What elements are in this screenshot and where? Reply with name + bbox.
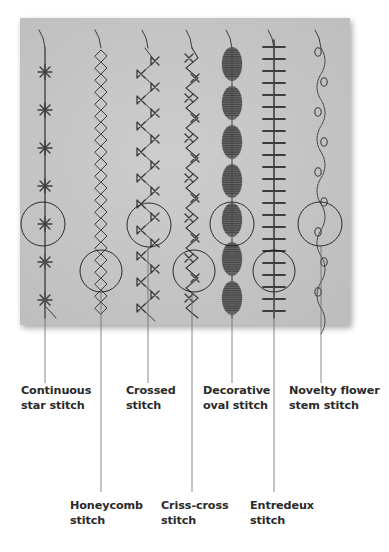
label-line-1: Honeycomb xyxy=(70,499,143,514)
label-line-2: star stitch xyxy=(21,399,91,414)
decorative-oval-label: Decorativeoval stitch xyxy=(203,384,270,413)
label-line-2: stitch xyxy=(250,514,314,529)
continuous-star-label: Continuousstar stitch xyxy=(21,384,91,413)
label-line-1: Criss-cross xyxy=(161,499,229,514)
label-line-2: stem stitch xyxy=(289,399,380,414)
label-line-1: Novelty flower xyxy=(289,384,380,399)
label-line-2: stitch xyxy=(126,399,176,414)
label-line-1: Continuous xyxy=(21,384,91,399)
crossed-label: Crossedstitch xyxy=(126,384,176,413)
criss-cross-label: Criss-crossstitch xyxy=(161,499,229,528)
label-line-1: Entredeux xyxy=(250,499,314,514)
entredeux-label: Entredeuxstitch xyxy=(250,499,314,528)
novelty-flower-stem-label: Novelty flowerstem stitch xyxy=(289,384,380,413)
honeycomb-label: Honeycombstitch xyxy=(70,499,143,528)
fabric-photo xyxy=(20,18,350,325)
stitch-diagram xyxy=(0,0,389,552)
label-line-2: stitch xyxy=(70,514,143,529)
label-line-1: Crossed xyxy=(126,384,176,399)
label-line-2: oval stitch xyxy=(203,399,270,414)
label-line-1: Decorative xyxy=(203,384,270,399)
label-line-2: stitch xyxy=(161,514,229,529)
